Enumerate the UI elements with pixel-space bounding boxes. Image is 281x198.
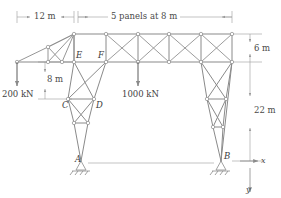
node-label-C: C — [62, 101, 69, 110]
node-label-E: E — [76, 51, 82, 60]
dimension-label-12m: 12 m — [34, 12, 56, 21]
right-tower — [201, 62, 232, 161]
node-label-A: A — [75, 155, 81, 164]
left-tower — [68, 62, 106, 161]
truss-diagram: 12 m 5 panels at 8 m 6 m 22 m 8 m 200 kN… — [0, 0, 281, 198]
node-label-F: F — [98, 51, 104, 60]
dimension-label-6m: 6 m — [254, 44, 270, 53]
node-label-D: D — [96, 101, 103, 110]
load-label-1000kN: 1000 kN — [122, 90, 159, 99]
truss-drawing — [0, 0, 281, 198]
node-label-B: B — [224, 152, 230, 161]
dimension-label-22m: 22 m — [254, 106, 276, 115]
load-label-200kN: 200 kN — [2, 90, 34, 99]
dimension-label-8m: 8 m — [47, 75, 63, 84]
dimension-label-5-panels: 5 panels at 8 m — [111, 12, 177, 21]
axis-label-y: y — [246, 186, 251, 194]
axis-label-x: x — [261, 157, 266, 165]
